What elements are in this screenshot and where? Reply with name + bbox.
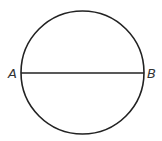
- circle-diagram: A B: [0, 0, 162, 141]
- diagram-canvas: A B: [0, 0, 162, 141]
- point-label-a: A: [7, 66, 17, 81]
- point-label-b: B: [147, 66, 156, 81]
